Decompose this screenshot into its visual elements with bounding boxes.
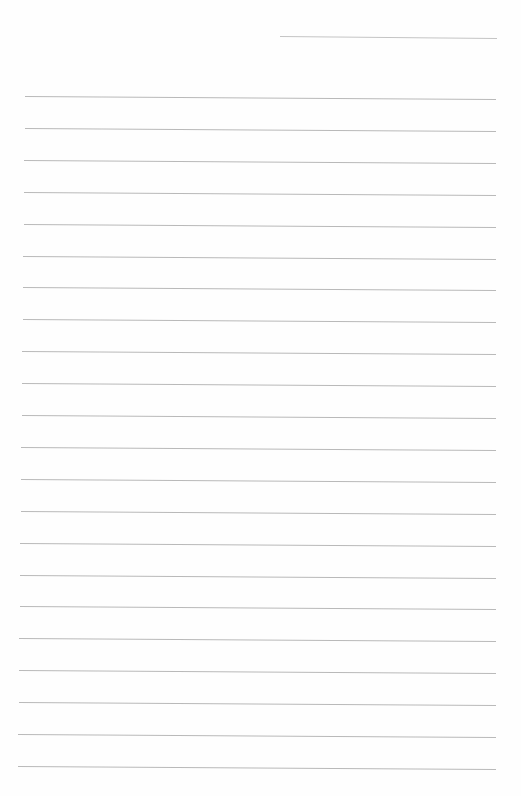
ruled-line [23,287,496,291]
ruled-line [20,543,496,547]
ruled-line [25,96,496,100]
ruled-line [19,670,496,674]
ruled-line [24,224,496,228]
ruled-line [20,606,496,610]
lined-paper-page [0,0,521,796]
ruled-line [18,734,496,738]
ruled-line [21,447,496,451]
ruled-line [20,575,496,579]
ruled-line [23,319,496,323]
ruled-line [22,383,496,387]
ruled-line [22,351,496,355]
ruled-line [19,702,496,706]
ruled-line [24,192,496,196]
ruled-line [21,511,496,515]
ruled-line [25,128,496,132]
ruled-lines [0,0,521,796]
ruled-line [23,256,496,260]
ruled-line [21,479,496,483]
ruled-line [24,160,496,164]
ruled-line [19,638,496,642]
ruled-line [22,415,496,419]
ruled-line [18,766,496,770]
